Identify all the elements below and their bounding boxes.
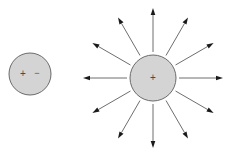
diagram-canvas: +− +: [0, 0, 234, 163]
charge-sign-glyph: +: [20, 68, 26, 79]
small-sphere-body: [9, 53, 51, 95]
small-charged-sphere: +−: [9, 53, 51, 95]
electric-field-diagram: +− +: [0, 0, 234, 163]
charge-sign-glyph: −: [34, 68, 39, 78]
large-sphere-charge-labels: +: [150, 72, 156, 83]
charge-sign-glyph: +: [150, 72, 156, 83]
large-charged-sphere: +: [130, 55, 176, 101]
